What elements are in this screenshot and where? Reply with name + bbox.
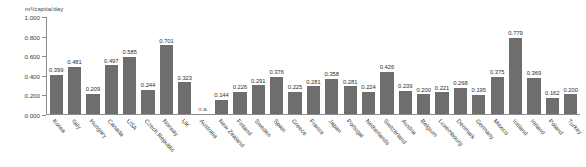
y-axis-tick (42, 95, 46, 96)
bar-value-label: 0.224 (361, 85, 376, 91)
bar-value-label: 0.481 (67, 60, 82, 66)
bar: 0.244 (141, 90, 154, 114)
bar: 0.358 (325, 79, 338, 114)
category-slot: Switzerland (378, 117, 396, 167)
bar: 0.162 (546, 98, 559, 114)
bar-value-label: 0.225 (288, 85, 303, 91)
category-slot: Canada (102, 117, 120, 167)
y-axis-tick-label: 0.200 (10, 92, 40, 99)
category-slot: Italy (65, 117, 83, 167)
bar: 0.268 (454, 88, 467, 114)
bar: 0.291 (252, 85, 265, 114)
category-slot: Poland (543, 117, 561, 167)
bar-value-label: 0.268 (453, 81, 468, 87)
category-slot: Hungary (84, 117, 102, 167)
bar-value-label: 0.358 (325, 72, 340, 78)
bar-value-label: 0.195 (472, 88, 487, 94)
bar: 0.195 (472, 95, 485, 114)
y-axis-tick-label: 0.600 (10, 53, 40, 60)
bar-slot: 0.585 (121, 17, 139, 114)
category-slot: Australia (194, 117, 212, 167)
bar: 0.375 (491, 77, 504, 114)
bar-slot: 0.209 (84, 17, 102, 114)
bar-value-label: 0.144 (214, 93, 229, 99)
bar-slot: 0.481 (65, 17, 83, 114)
bar: 0.226 (233, 92, 246, 114)
bar-value-label: 0.200 (563, 88, 578, 94)
bar: 0.239 (399, 91, 412, 114)
bar: 0.209 (86, 94, 99, 114)
bar-slot: 0.195 (470, 17, 488, 114)
category-slot: Netherlands (359, 117, 377, 167)
category-slot: Norway (157, 117, 175, 167)
category-slot: Spain (268, 117, 286, 167)
bar-slot: 0.358 (323, 17, 341, 114)
plot-area: 0.0000.2000.4000.6000.8001.000 0.3990.48… (46, 17, 580, 115)
bar-value-label: 0.369 (527, 71, 542, 77)
bar-slot: 0.244 (139, 17, 157, 114)
category-slot: USA (121, 117, 139, 167)
bar: 0.281 (344, 86, 357, 114)
category-slot: Ireland (525, 117, 543, 167)
bar-value-label: 0.375 (490, 70, 505, 76)
category-slot: Mexico (488, 117, 506, 167)
bar-slot: n.a. (194, 17, 212, 114)
category-slot: Portugal (341, 117, 359, 167)
y-axis-tick (42, 17, 46, 18)
bar-value-label: n.a. (198, 107, 208, 113)
bar-value-label: 0.291 (251, 79, 266, 85)
bar-slot: 0.701 (157, 17, 175, 114)
bar-slot: 0.221 (433, 17, 451, 114)
bar-series: 0.3990.4810.2090.4970.5850.2440.7010.323… (47, 17, 580, 114)
category-slot: Finland (231, 117, 249, 167)
bar: 0.144 (215, 100, 228, 114)
x-axis-category-labels: KoreaItalyHungaryCanadaUSACzech Republic… (47, 117, 580, 167)
bar-value-label: 0.239 (398, 84, 413, 90)
category-slot: Belgium (415, 117, 433, 167)
category-slot: France (304, 117, 322, 167)
category-slot: Czech Republic (139, 117, 157, 167)
bar-slot: 0.225 (286, 17, 304, 114)
bar: 0.497 (105, 65, 118, 114)
bar: 0.200 (564, 94, 577, 114)
bar-slot: 0.291 (249, 17, 267, 114)
category-slot: UK (176, 117, 194, 167)
bar-slot: 0.399 (47, 17, 65, 114)
category-slot: Germany (470, 117, 488, 167)
bar-slot: 0.369 (525, 17, 543, 114)
bar: 0.426 (380, 72, 393, 114)
x-axis-category-label: UK (180, 118, 190, 128)
x-axis-line (46, 114, 580, 115)
bar-slot: 0.224 (359, 17, 377, 114)
bar-slot: 0.376 (268, 17, 286, 114)
x-axis-category-label: Spain (272, 118, 287, 133)
bar: 0.585 (123, 57, 136, 114)
bar-value-label: 0.323 (178, 76, 193, 82)
y-axis-tick-label: 1.000 (10, 14, 40, 21)
bar-value-label: 0.281 (343, 80, 358, 86)
bar-value-label: 0.244 (141, 83, 156, 89)
bar-value-label: 0.701 (159, 39, 174, 45)
category-slot: Japan (323, 117, 341, 167)
category-slot: Luxembourg (433, 117, 451, 167)
bar: 0.221 (435, 92, 448, 114)
category-slot: Korea (47, 117, 65, 167)
bar-slot: 0.200 (562, 17, 580, 114)
bar-value-label: 0.209 (86, 87, 101, 93)
x-axis-category-label: Italy (70, 118, 82, 130)
y-axis-tick (42, 76, 46, 77)
bar-value-label: 0.399 (49, 68, 64, 74)
bar-chart: m³/capita/day 0.0000.2000.4000.6000.8001… (0, 0, 586, 167)
y-axis-tick-label: 0.400 (10, 72, 40, 79)
bar-slot: 0.200 (415, 17, 433, 114)
bar-value-label: 0.585 (122, 50, 137, 56)
y-axis-tick (42, 56, 46, 57)
bar-slot: 0.375 (488, 17, 506, 114)
bar-slot: 0.779 (506, 17, 524, 114)
bar-value-label: 0.162 (545, 91, 560, 97)
bar: 0.701 (160, 45, 173, 114)
bar: 0.323 (178, 82, 191, 114)
bar-slot: 0.281 (304, 17, 322, 114)
bar-slot: 0.162 (543, 17, 561, 114)
bar: 0.225 (288, 92, 301, 114)
